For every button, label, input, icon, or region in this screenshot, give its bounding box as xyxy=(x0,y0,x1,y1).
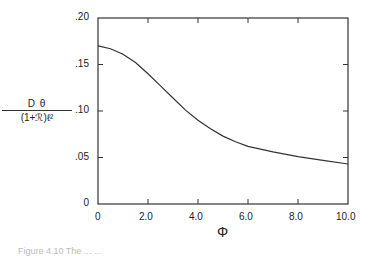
x-tick-label: 4.0 xyxy=(189,211,203,222)
x-axis-label: Φ xyxy=(217,224,228,240)
x-tick-label: 0 xyxy=(95,211,101,222)
x-tick-label: 6.0 xyxy=(239,211,253,222)
y-tick-label: .10 xyxy=(75,104,89,115)
y-axis-label: D θ (1+ℛ)ℓ² xyxy=(2,98,72,123)
plot-frame xyxy=(98,18,348,204)
y-tick-label: .20 xyxy=(75,11,89,22)
x-tick-label: 10.0 xyxy=(336,211,355,222)
axis-ticks xyxy=(98,18,348,204)
y-tick-label: .15 xyxy=(75,58,89,69)
x-tick-label: 8.0 xyxy=(289,211,303,222)
x-tick-label: 2.0 xyxy=(139,211,153,222)
y-axis-label-denominator: (1+ℛ)ℓ² xyxy=(2,111,72,123)
figure-caption: Figure 4.10 The ... ... xyxy=(18,246,101,256)
y-tick-label: 0 xyxy=(83,197,89,208)
y-axis-label-numerator: D θ xyxy=(2,98,72,111)
y-tick-label: .05 xyxy=(75,151,89,162)
data-line xyxy=(98,46,348,164)
